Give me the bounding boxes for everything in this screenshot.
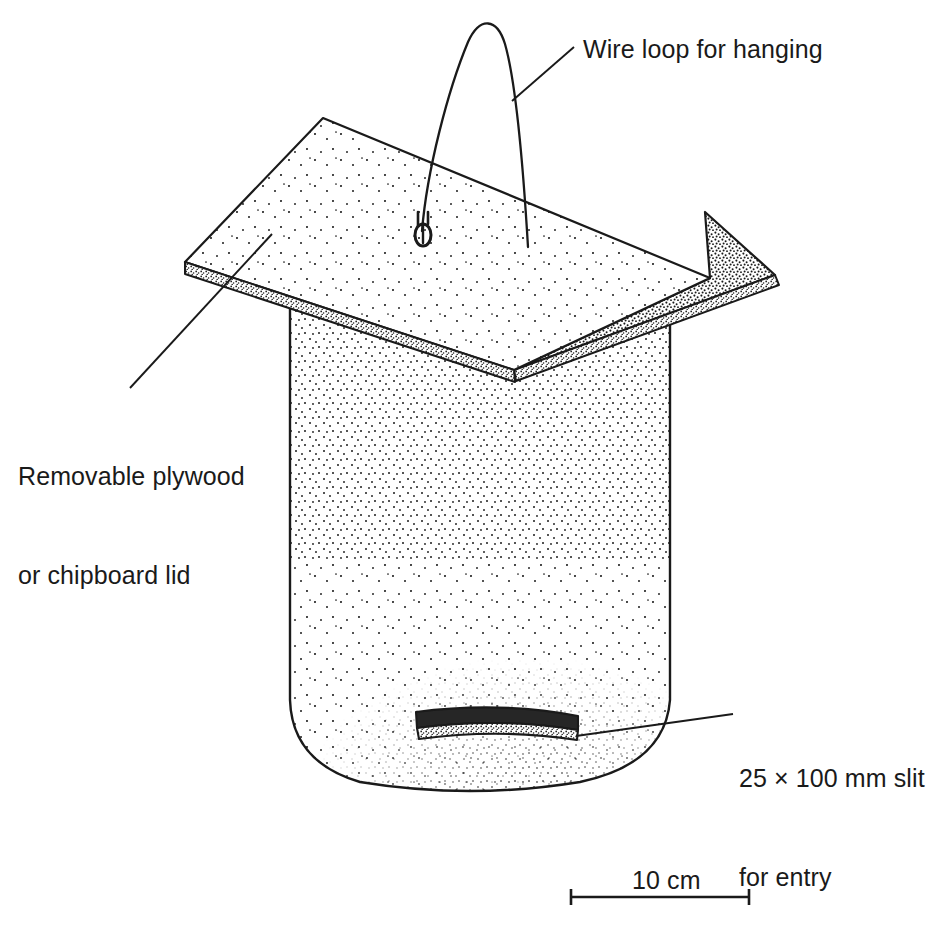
- label-lid-line2: or chipboard lid: [18, 559, 245, 592]
- figure-illustration: Wire loop for hanging Removable plywood …: [0, 0, 930, 929]
- label-scale-bar: 10 cm: [632, 864, 701, 897]
- label-lid-line1: Removable plywood: [18, 460, 245, 493]
- label-slit-line1: 25 × 100 mm slit: [739, 762, 925, 795]
- label-wire-loop: Wire loop for hanging: [583, 33, 823, 66]
- roof-lid: [180, 110, 790, 382]
- label-slit-line2: for entry: [739, 861, 925, 894]
- body-bottom-stipple: [280, 560, 680, 800]
- label-entry-slit: 25 × 100 mm slit for entry: [739, 696, 925, 929]
- label-lid: Removable plywood or chipboard lid: [18, 394, 245, 658]
- leader-line-wire-loop: [512, 47, 574, 101]
